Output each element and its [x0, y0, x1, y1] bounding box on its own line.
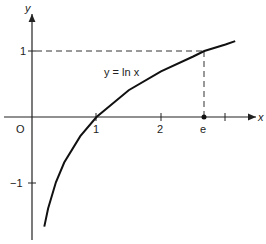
x-tick-label-1: 1: [93, 123, 99, 135]
x-tick-label-2: 2: [157, 123, 163, 135]
x-tick-label-e: e: [200, 123, 206, 135]
y-tick-label-neg1: −1: [10, 177, 23, 189]
equation-label: y = ln x: [104, 66, 140, 78]
ln-graph: y x O 1 2 e 1 −1 y = ln x: [0, 0, 266, 244]
point-e: [202, 115, 207, 120]
y-axis-label: y: [24, 2, 32, 14]
x-axis-label: x: [257, 111, 264, 123]
ln-curve: [44, 41, 235, 227]
origin-label: O: [16, 123, 25, 135]
y-tick-label-1: 1: [20, 45, 26, 57]
